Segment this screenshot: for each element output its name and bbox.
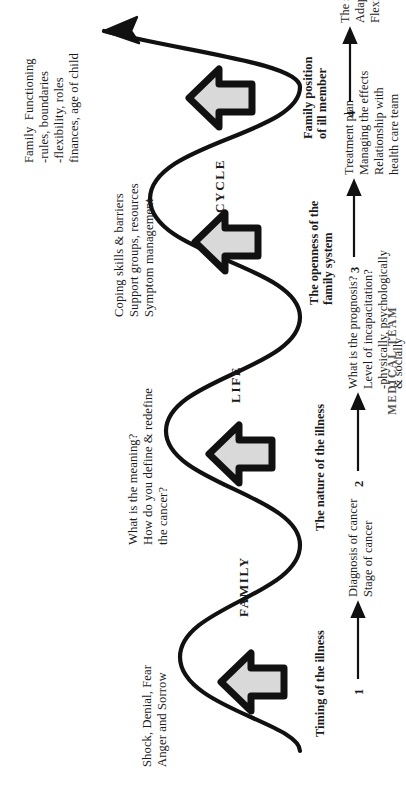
medical-note-1: Diagnosis of cancer Stage of cancer (346, 499, 376, 597)
medical-note-4: The state of the family Adaptation to il… (338, 0, 383, 23)
medical-note-3: Treatment plan Managing the effects Rela… (342, 71, 402, 175)
figure-caption: MEDICAL TEAM (386, 306, 400, 415)
